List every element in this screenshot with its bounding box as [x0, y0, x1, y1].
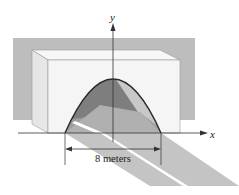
- tunnel-diagram: x y 8 meters: [0, 0, 239, 195]
- box-top-face: [32, 50, 180, 60]
- dimension-label: 8 meters: [95, 153, 131, 164]
- y-axis-label: y: [109, 11, 115, 23]
- dimension-arrow-left-icon: [65, 147, 72, 152]
- x-axis-label: x: [209, 128, 215, 140]
- box-left-side: [32, 50, 48, 133]
- road: [65, 133, 239, 186]
- y-axis-arrow-icon: [111, 23, 116, 31]
- x-axis-arrow-icon: [200, 131, 208, 136]
